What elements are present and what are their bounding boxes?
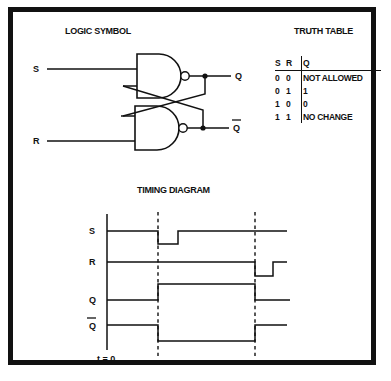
truth-table-title: TRUTH TABLE (294, 26, 353, 36)
cell-r: 1 (286, 110, 302, 123)
waveform-qbar (107, 325, 287, 341)
truth-table-header-row: S R Q (275, 56, 381, 71)
cell-r: 0 (286, 97, 302, 110)
table-row: 1 0 0 (275, 97, 381, 110)
waveform-label-qbar: Q (89, 321, 96, 331)
cell-s: 0 (275, 84, 286, 97)
table-row: 0 0 NOT ALLOWED (275, 71, 381, 85)
bottom-nand-bubble (179, 124, 187, 132)
waveform-q (107, 284, 290, 300)
cell-q: 0 (303, 97, 381, 110)
bottom-nand-gate (135, 106, 179, 150)
truth-table-header-q: Q (303, 56, 381, 71)
truth-table: S R Q 0 0 NOT ALLOWED 0 1 (275, 56, 387, 123)
cell-s: 0 (275, 71, 286, 85)
truth-table-header-s: S (275, 56, 286, 71)
cell-q: NO CHANGE (303, 110, 381, 123)
cell-q: 1 (303, 84, 381, 97)
truth-table-grid: S R Q 0 0 NOT ALLOWED 0 1 (275, 56, 381, 123)
cell-q: NOT ALLOWED (303, 71, 381, 85)
waveform-r (107, 262, 287, 276)
table-row: 1 1 NO CHANGE (275, 110, 381, 123)
logic-symbol-title: LOGIC SYMBOL (65, 26, 131, 36)
waveform-label-r: R (89, 257, 96, 267)
r-input-label: R (33, 136, 40, 146)
cell-s: 1 (275, 110, 286, 123)
truth-table-header-r: R (286, 56, 302, 71)
timing-diagram-plot: t = 0 S R Q Q (75, 204, 375, 364)
figure-border: LOGIC SYMBOL S R Q Q (8, 7, 376, 365)
top-nand-bubble (181, 72, 189, 80)
qbar-output-label: Q (233, 123, 240, 133)
figure-root: LOGIC SYMBOL S R Q Q (0, 0, 391, 381)
waveform-label-s: S (89, 226, 95, 236)
cell-r: 0 (286, 71, 302, 85)
table-row: 0 1 1 (275, 84, 381, 97)
waveform-label-q: Q (89, 295, 96, 305)
s-input-label: S (33, 64, 39, 74)
timing-diagram-title: TIMING DIAGRAM (137, 185, 210, 195)
waveform-s (107, 231, 287, 244)
cell-s: 1 (275, 97, 286, 110)
logic-symbol-schematic: S R Q Q (27, 44, 247, 162)
q-output-label: Q (235, 71, 242, 81)
cell-r: 1 (286, 84, 302, 97)
origin-label: t = 0 (97, 354, 115, 364)
